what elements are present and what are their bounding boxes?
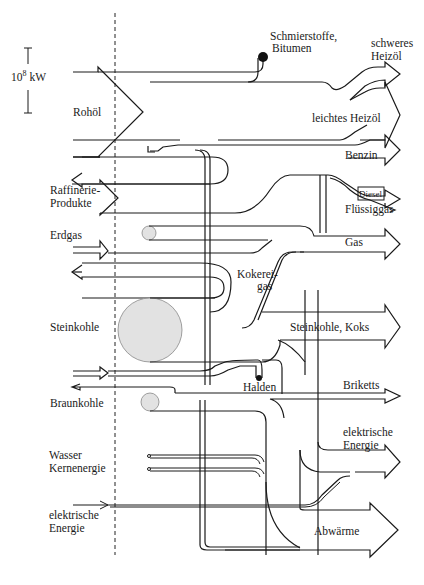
label-rohoel: Rohöl xyxy=(73,106,101,118)
scale-bar: 108 kW xyxy=(11,48,46,113)
label-schweres-1: schweres xyxy=(371,37,414,49)
label-braunkohle: Braunkohle xyxy=(50,397,104,409)
label-kokerei-1: Kokerei- xyxy=(237,268,278,280)
label-steinkohle-koks: Steinkohle, Koks xyxy=(290,321,370,334)
scale-label: 108 kW xyxy=(11,69,46,83)
flow-rohoel xyxy=(73,58,400,157)
braunkohle-blob xyxy=(141,393,159,411)
label-kernenergie: Kernenergie xyxy=(49,462,106,475)
schmierstoffe-dot xyxy=(258,52,268,62)
label-wasser: Wasser xyxy=(49,449,82,461)
label-elektrische-in-1: elektrische xyxy=(49,509,99,521)
label-raffinerie-2: Produkte xyxy=(50,197,92,209)
flow-abwaerme xyxy=(200,400,398,557)
flow-elektrische-output xyxy=(300,442,400,508)
label-halden: Halden xyxy=(243,381,276,393)
flow-wasser-kern xyxy=(148,455,265,478)
schmierstoffe-pipe xyxy=(248,58,258,82)
steinkohle-blob xyxy=(118,298,182,362)
label-benzin: Benzin xyxy=(345,149,378,161)
label-leichtes-heizoel: leichtes Heizöl xyxy=(312,112,381,124)
label-schmierstoffe-2: Bitumen xyxy=(272,42,312,54)
label-kokerei-2: gas xyxy=(257,280,273,293)
label-briketts: Briketts xyxy=(343,379,380,391)
label-diesel: Diesel xyxy=(359,189,382,199)
label-elektrische-out-2: Energie xyxy=(343,439,379,452)
label-elektrische-in-2: Energie xyxy=(49,522,85,535)
label-abwaerme: Abwärme xyxy=(314,525,359,537)
label-elektrische-out-1: elektrische xyxy=(343,426,393,438)
flow-raffinerie xyxy=(72,157,400,233)
label-fluessiggas: Flüssiggas xyxy=(345,203,394,216)
label-raffinerie-1: Raffinerie- xyxy=(50,184,100,196)
erdgas-blob xyxy=(142,226,156,240)
energy-flow-diagram: 108 kW xyxy=(0,0,424,585)
label-schweres-2: Heizöl xyxy=(371,50,402,62)
label-gas: Gas xyxy=(345,236,363,248)
label-erdgas: Erdgas xyxy=(50,229,82,242)
label-steinkohle: Steinkohle xyxy=(50,321,99,333)
